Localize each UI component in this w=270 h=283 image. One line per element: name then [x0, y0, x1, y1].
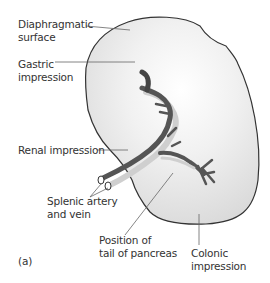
label-tail-of-pancreas: Position of tail of pancreas — [99, 234, 177, 259]
label-splenic-artery-vein: Splenic artery and vein — [47, 195, 117, 220]
panel-label: (a) — [18, 255, 32, 268]
label-gastric-impression: Gastric impression — [18, 58, 73, 83]
label-renal-impression: Renal impression — [18, 144, 105, 157]
label-colonic-impression: Colonic impression — [191, 247, 246, 272]
label-diaphragmatic-surface: Diaphragmatic surface — [18, 18, 93, 43]
spleen-outline — [86, 17, 259, 224]
spleen-diagram: Diaphragmatic surface Gastric impression… — [0, 0, 270, 283]
